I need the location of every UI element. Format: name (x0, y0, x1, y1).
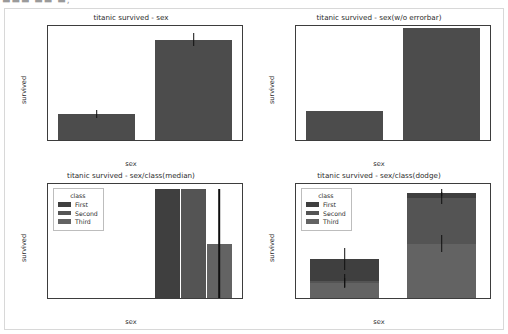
legend-label-Third: Third (323, 218, 339, 225)
subplot-title: titanic survived - sex(w/o errorbar) (255, 13, 503, 22)
errorbar-female-Third (219, 189, 221, 298)
bar-female-First (155, 189, 180, 298)
subplot-title: titanic survived - sex/class(dodge) (255, 171, 503, 180)
legend-title: class (58, 192, 98, 199)
x-axis-label: sex (255, 318, 503, 326)
bar-female (403, 28, 481, 140)
y-tick-mark (295, 109, 296, 110)
y-tick-mark (47, 140, 48, 141)
y-tick-mark (47, 85, 48, 86)
legend-label-Second: Second (75, 210, 98, 217)
legend-swatch-Third (58, 219, 71, 224)
plot-area: 0.00.20.40.60.81.0malefemaleclassFirstSe… (47, 183, 243, 299)
legend-swatch-Third (306, 219, 319, 224)
y-axis-label: survived (268, 76, 276, 104)
bar-female-Second (181, 189, 206, 298)
legend-swatch-First (306, 202, 319, 207)
x-axis-label: sex (255, 160, 503, 168)
y-tick-mark (47, 254, 48, 255)
x-axis-label: sex (7, 160, 255, 168)
y-axis-label: survived (20, 234, 28, 262)
x-tick-mark (344, 298, 345, 299)
clipped-top-text-label: ▬▬▬ ▬▬ ▬, (2, 0, 508, 5)
x-tick-mark (344, 140, 345, 141)
y-tick-mark (47, 189, 48, 190)
legend-label-Third: Third (75, 218, 91, 225)
y-tick-mark (295, 94, 296, 95)
x-axis-label: sex (7, 318, 255, 326)
subplot-grid: titanic survived - sex survived sex 0.00… (5, 9, 503, 329)
y-tick-mark (295, 79, 296, 80)
matplotlib-figure: titanic survived - sex survived sex 0.00… (4, 8, 504, 330)
y-tick-mark (295, 140, 296, 141)
legend-item-First[interactable]: First (58, 201, 98, 208)
bar-male (306, 111, 384, 140)
y-tick-mark (47, 298, 48, 299)
y-tick-mark (47, 276, 48, 277)
y-tick-mark (295, 49, 296, 50)
y-axis-label: survived (20, 76, 28, 104)
figure-page: ▬▬▬ ▬▬ ▬, titanic survived - sex survive… (0, 0, 508, 334)
legend-label-Second: Second (323, 210, 346, 217)
x-tick-mark (96, 140, 97, 141)
y-tick-mark (295, 232, 296, 233)
errorbar-female (193, 33, 195, 47)
y-tick-mark (295, 298, 296, 299)
y-tick-mark (47, 211, 48, 212)
y-tick-mark (47, 112, 48, 113)
errorbar-male-First (344, 248, 346, 270)
x-tick-mark (96, 298, 97, 299)
plot-area: 0.00.20.40.60.8malefemale (47, 25, 243, 141)
legend-swatch-First (58, 202, 71, 207)
subplot-titanic-survived-sex-class-dodge: titanic survived - sex/class(dodge) surv… (255, 169, 503, 327)
legend-item-Second[interactable]: Second (58, 210, 98, 217)
legend-item-First[interactable]: First (306, 201, 346, 208)
errorbar-female-Third (441, 235, 443, 252)
y-tick-mark (47, 232, 48, 233)
subplot-title: titanic survived - sex (7, 13, 255, 22)
x-tick-mark (441, 298, 442, 299)
y-tick-mark (295, 34, 296, 35)
legend: classFirstSecondThird (301, 188, 352, 231)
y-tick-mark (295, 64, 296, 65)
y-tick-mark (295, 254, 296, 255)
legend-swatch-Second (58, 211, 71, 216)
x-tick-mark (193, 140, 194, 141)
legend-label-First: First (323, 201, 336, 208)
legend-swatch-Second (306, 211, 319, 216)
errorbar-male-Third (344, 278, 346, 288)
y-axis-label: survived (268, 234, 276, 262)
y-tick-mark (295, 124, 296, 125)
clipped-top-text: ▬▬▬ ▬▬ ▬, (0, 0, 508, 7)
plot-area: 0.00.20.40.60.81.0malefemaleclassFirstSe… (295, 183, 491, 299)
legend: classFirstSecondThird (53, 188, 104, 231)
x-tick-mark (193, 298, 194, 299)
subplot-titanic-survived-sex-no-errorbar: titanic survived - sex(w/o errorbar) sur… (255, 11, 503, 169)
y-tick-mark (47, 31, 48, 32)
legend-item-Third[interactable]: Third (58, 218, 98, 225)
y-tick-mark (295, 276, 296, 277)
y-tick-mark (47, 58, 48, 59)
errorbar-male (96, 110, 98, 118)
legend-item-Third[interactable]: Third (306, 218, 346, 225)
legend-item-Second[interactable]: Second (306, 210, 346, 217)
subplot-titanic-survived-sex: titanic survived - sex survived sex 0.00… (7, 11, 255, 169)
subplot-title: titanic survived - sex/class(median) (7, 171, 255, 180)
plot-area: 0.00.10.20.30.40.50.60.7malefemale (295, 25, 491, 141)
legend-title: class (306, 192, 346, 199)
subplot-titanic-survived-sex-class-median: titanic survived - sex/class(median) sur… (7, 169, 255, 327)
legend-label-First: First (75, 201, 88, 208)
y-tick-mark (295, 211, 296, 212)
errorbar-female-Second (441, 192, 443, 204)
bar-female (155, 40, 233, 140)
x-tick-mark (441, 140, 442, 141)
y-tick-mark (295, 189, 296, 190)
